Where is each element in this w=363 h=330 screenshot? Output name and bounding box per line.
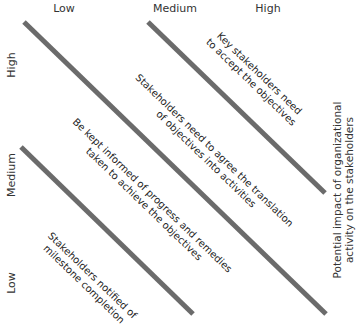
divider-lines bbox=[0, 0, 363, 330]
side-axis-line: activity on the stakeholders bbox=[343, 102, 355, 279]
side-axis-label: Potential impact of organizational activ… bbox=[331, 102, 355, 279]
side-axis-line: Potential impact of organizational bbox=[331, 102, 343, 279]
